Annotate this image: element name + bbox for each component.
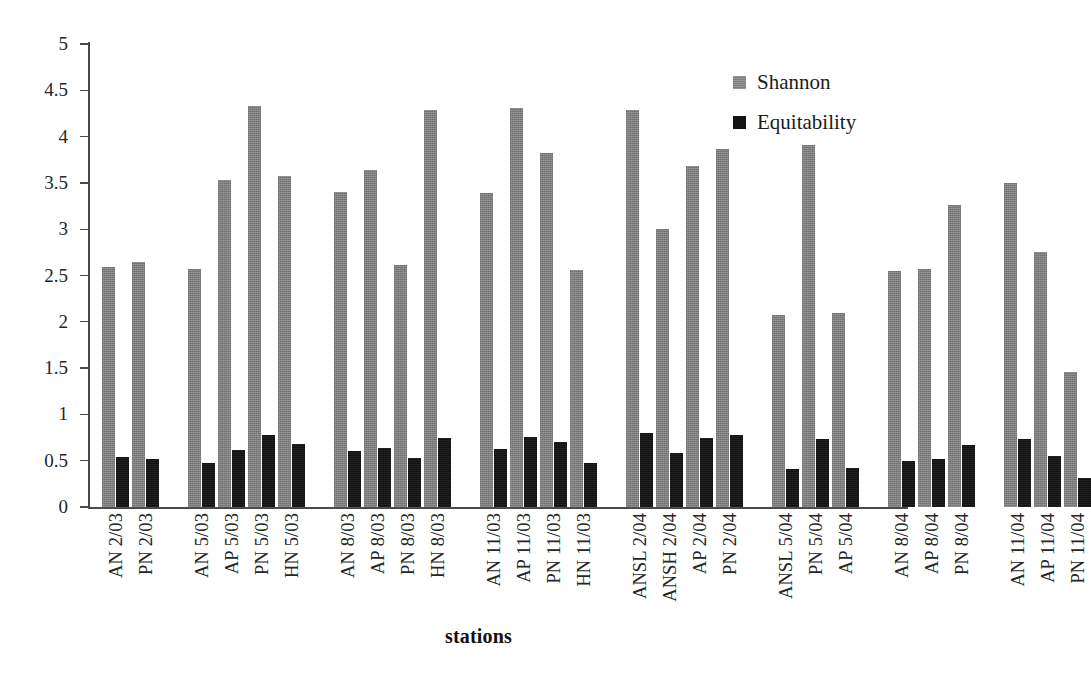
bar-shannon bbox=[540, 153, 553, 507]
bar-shannon bbox=[394, 265, 407, 507]
bar-shannon bbox=[656, 229, 669, 507]
y-tick-label: 2 bbox=[0, 312, 68, 331]
x-tick-label-text: AP 11/04 bbox=[1038, 513, 1057, 583]
bar-equitability bbox=[786, 469, 799, 507]
x-tick-label-text: PN 11/04 bbox=[1068, 513, 1087, 584]
legend-item[interactable]: Shannon bbox=[733, 62, 856, 102]
bar-equitability bbox=[146, 459, 159, 507]
y-tick-mark bbox=[80, 136, 88, 137]
legend-swatch-shannon-icon bbox=[733, 76, 746, 89]
legend-swatch-equitability-icon bbox=[733, 116, 746, 129]
x-tick-label-text: PN 11/03 bbox=[544, 513, 563, 584]
y-tick-mark bbox=[80, 367, 88, 368]
x-tick-label-text: HN 8/03 bbox=[428, 513, 447, 578]
bar-shannon bbox=[1034, 252, 1047, 507]
y-tick-label: 3.5 bbox=[0, 173, 68, 192]
y-tick-mark bbox=[80, 414, 88, 415]
x-tick-label-text: HN 11/03 bbox=[574, 513, 593, 587]
bar-shannon bbox=[424, 110, 437, 507]
x-tick-label-text: ANSL 5/04 bbox=[776, 513, 795, 599]
y-tick-label: 4.5 bbox=[0, 80, 68, 99]
bar-equitability bbox=[232, 450, 245, 507]
bar-shannon bbox=[716, 149, 729, 507]
x-tick-label-text: AN 11/04 bbox=[1008, 513, 1027, 587]
y-tick-label: 2.5 bbox=[0, 266, 68, 285]
bar-equitability bbox=[640, 433, 653, 507]
bar-shannon bbox=[188, 269, 201, 507]
x-tick-label-text: PN 2/04 bbox=[720, 513, 739, 575]
bar-shannon bbox=[278, 176, 291, 507]
bar-equitability bbox=[378, 448, 391, 507]
bar-shannon bbox=[480, 193, 493, 507]
y-tick-mark bbox=[80, 182, 88, 183]
y-tick-mark bbox=[80, 43, 88, 44]
x-tick-label-text: AP 8/03 bbox=[368, 513, 387, 574]
bar-shannon bbox=[132, 262, 145, 507]
x-tick-label-text: PN 5/04 bbox=[806, 513, 825, 575]
bar-equitability bbox=[262, 435, 275, 507]
bar-equitability bbox=[494, 449, 507, 507]
y-tick-mark bbox=[80, 506, 88, 507]
bar-shannon bbox=[832, 313, 845, 507]
bar-equitability bbox=[1048, 456, 1061, 507]
bar-equitability bbox=[816, 439, 829, 507]
x-axis-line bbox=[88, 507, 908, 509]
x-tick-label-text: AN 11/03 bbox=[484, 513, 503, 587]
y-tick-mark bbox=[80, 229, 88, 230]
bar-equitability bbox=[700, 438, 713, 507]
y-tick-label: 5 bbox=[0, 34, 68, 53]
bar-shannon bbox=[510, 108, 523, 507]
y-tick-mark bbox=[80, 321, 88, 322]
bar-equitability bbox=[846, 468, 859, 507]
y-tick-label: 1.5 bbox=[0, 358, 68, 377]
legend-label: Equitability bbox=[757, 112, 856, 133]
bar-shannon bbox=[248, 106, 261, 507]
x-tick-label-text: AP 5/04 bbox=[836, 513, 855, 574]
x-tick-label-text: AN 2/03 bbox=[106, 513, 125, 578]
bar-equitability bbox=[1078, 478, 1091, 507]
x-tick-label-text: PN 5/03 bbox=[252, 513, 271, 575]
bar-equitability bbox=[116, 457, 129, 507]
y-tick-mark bbox=[80, 275, 88, 276]
legend-label: Shannon bbox=[757, 72, 831, 93]
bar-shannon bbox=[364, 170, 377, 507]
bar-shannon bbox=[570, 270, 583, 507]
x-tick-label-text: PN 8/04 bbox=[952, 513, 971, 575]
bar-equitability bbox=[408, 458, 421, 507]
y-tick-label: 3 bbox=[0, 219, 68, 238]
bar-shannon bbox=[802, 145, 815, 507]
bar-equitability bbox=[962, 445, 975, 507]
bar-equitability bbox=[348, 451, 361, 507]
bar-shannon bbox=[1064, 372, 1077, 507]
x-tick-label-text: ANSL 2/04 bbox=[630, 513, 649, 599]
x-tick-label-text: AP 11/03 bbox=[514, 513, 533, 583]
bar-equitability bbox=[670, 453, 683, 507]
bar-shannon bbox=[334, 192, 347, 507]
y-tick-mark bbox=[80, 90, 88, 91]
y-tick-label: 4 bbox=[0, 127, 68, 146]
bar-shannon bbox=[772, 315, 785, 507]
bar-shannon bbox=[918, 269, 931, 507]
x-tick-label-text: AP 2/04 bbox=[690, 513, 709, 574]
bar-equitability bbox=[584, 463, 597, 507]
bar-equitability bbox=[292, 444, 305, 507]
bar-equitability bbox=[902, 461, 915, 507]
x-axis-title: stations bbox=[0, 625, 957, 648]
legend-item[interactable]: Equitability bbox=[733, 102, 856, 142]
x-tick-label-text: AN 8/04 bbox=[892, 513, 911, 578]
bar-shannon bbox=[948, 205, 961, 507]
x-tick-label-text: AN 8/03 bbox=[338, 513, 357, 578]
x-tick-label-text: HN 5/03 bbox=[282, 513, 301, 578]
x-tick-label-text: PN 8/03 bbox=[398, 513, 417, 575]
x-tick-label-text: AN 5/03 bbox=[192, 513, 211, 578]
bar-shannon bbox=[218, 180, 231, 507]
bar-shannon bbox=[888, 271, 901, 507]
y-tick-label: 0 bbox=[0, 497, 68, 516]
bar-equitability bbox=[1018, 439, 1031, 507]
bar-equitability bbox=[438, 438, 451, 507]
y-tick-label: 0.5 bbox=[0, 451, 68, 470]
x-tick-label-text: ANSH 2/04 bbox=[660, 513, 679, 602]
bar-equitability bbox=[932, 459, 945, 507]
bar-equitability bbox=[202, 463, 215, 507]
